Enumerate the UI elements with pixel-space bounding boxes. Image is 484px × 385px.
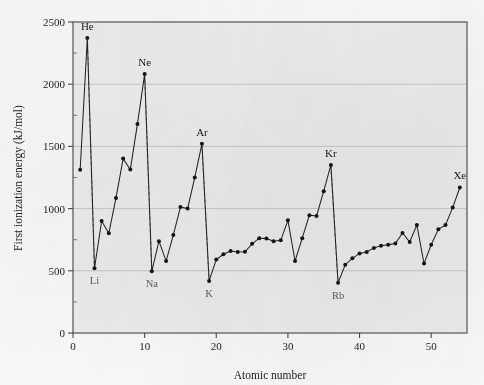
data-point xyxy=(229,249,233,253)
data-point xyxy=(286,218,290,222)
data-point xyxy=(365,250,369,254)
data-point xyxy=(429,243,433,247)
data-point xyxy=(114,196,118,200)
element-label-xe: Xe xyxy=(453,169,466,181)
data-point xyxy=(393,241,397,245)
x-tick-label: 50 xyxy=(426,340,438,352)
element-label-ar: Ar xyxy=(196,126,208,138)
x-tick-label: 30 xyxy=(282,340,294,352)
data-point xyxy=(171,233,175,237)
y-tick-label: 2000 xyxy=(43,78,66,90)
element-label-rb: Rb xyxy=(332,290,344,301)
data-point xyxy=(451,206,455,210)
data-point xyxy=(315,214,319,218)
data-point xyxy=(186,207,190,211)
x-axis-title: Atomic number xyxy=(234,369,307,381)
data-point xyxy=(193,175,197,179)
data-point xyxy=(322,189,326,193)
data-point xyxy=(221,252,225,256)
element-label-k: K xyxy=(205,288,213,299)
x-tick-label: 40 xyxy=(354,340,366,352)
y-axis-ticks xyxy=(68,22,73,333)
data-point xyxy=(107,231,111,235)
data-point xyxy=(329,163,333,167)
element-label-na: Na xyxy=(146,278,159,289)
data-point xyxy=(257,236,261,240)
element-label-ne: Ne xyxy=(138,56,151,68)
data-point xyxy=(272,239,276,243)
data-point xyxy=(336,281,340,285)
data-point xyxy=(92,266,96,270)
data-point xyxy=(200,142,204,146)
plot-background xyxy=(73,22,467,333)
data-point xyxy=(408,240,412,244)
y-axis-tick-labels: 05001000150020002500 xyxy=(43,16,66,339)
data-point xyxy=(214,258,218,262)
data-point xyxy=(85,36,89,40)
data-point xyxy=(78,168,82,172)
figure-canvas: 05001000150020002500 01020304050 HeNeArK… xyxy=(0,0,484,385)
data-point xyxy=(178,205,182,209)
data-point xyxy=(164,259,168,263)
element-label-li: Li xyxy=(90,275,99,286)
data-point xyxy=(100,219,104,223)
data-point xyxy=(293,259,297,263)
data-point xyxy=(415,223,419,227)
ionization-energy-chart: 05001000150020002500 01020304050 HeNeArK… xyxy=(0,0,484,385)
data-point xyxy=(264,236,268,240)
y-axis-title: First ionization energy (kJ/mol) xyxy=(12,105,25,251)
data-point xyxy=(128,168,132,172)
data-point xyxy=(379,244,383,248)
data-point xyxy=(150,269,154,273)
data-point xyxy=(143,72,147,76)
data-point xyxy=(436,227,440,231)
data-point xyxy=(236,250,240,254)
data-point xyxy=(307,213,311,217)
data-point xyxy=(372,246,376,250)
y-tick-label: 0 xyxy=(60,327,66,339)
y-tick-label: 500 xyxy=(49,265,66,277)
data-point xyxy=(157,239,161,243)
x-tick-label: 20 xyxy=(211,340,223,352)
data-point xyxy=(243,250,247,254)
data-point xyxy=(422,262,426,266)
data-point xyxy=(444,223,448,227)
x-axis-tick-labels: 01020304050 xyxy=(70,340,437,352)
data-point xyxy=(358,251,362,255)
y-tick-label: 1500 xyxy=(43,140,66,152)
y-tick-label: 1000 xyxy=(43,203,66,215)
data-point xyxy=(207,279,211,283)
data-point xyxy=(458,185,462,189)
data-point xyxy=(135,122,139,126)
data-point xyxy=(279,238,283,242)
data-point xyxy=(386,243,390,247)
element-label-he: He xyxy=(81,20,94,32)
data-point xyxy=(121,157,125,161)
data-point xyxy=(250,242,254,246)
x-tick-label: 0 xyxy=(70,340,76,352)
data-point xyxy=(343,263,347,267)
x-axis-ticks xyxy=(73,333,431,338)
x-tick-label: 10 xyxy=(139,340,151,352)
y-tick-label: 2500 xyxy=(43,16,66,28)
data-point xyxy=(350,256,354,260)
element-label-kr: Kr xyxy=(325,147,337,159)
data-point xyxy=(401,231,405,235)
data-point xyxy=(300,236,304,240)
